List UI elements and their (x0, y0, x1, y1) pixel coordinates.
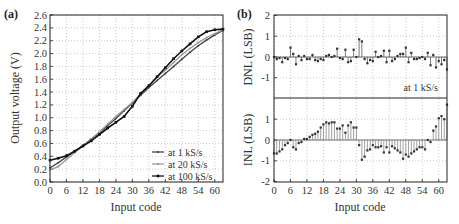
x-tick-label: 48 (401, 185, 412, 196)
x-tick-label: 60 (434, 185, 445, 196)
x-tick-label: 36 (144, 185, 155, 196)
y-tick-label: -1 (261, 155, 270, 166)
y-tick-label: 1.0 (34, 112, 47, 123)
x-tick-label: 0 (47, 185, 52, 196)
legend-item: at 1 kS/s (152, 147, 203, 158)
x-tick-label: 30 (127, 185, 138, 196)
x-tick-label: 12 (78, 185, 89, 196)
x-axis-title: Input code (111, 200, 162, 214)
figure: 0.00.20.40.60.81.01.21.41.61.82.02.22.42… (0, 0, 459, 224)
dnl-annotation: at 1 kS/s (404, 82, 439, 93)
x-tick-label: 30 (351, 185, 362, 196)
x-tick-label: 24 (335, 185, 346, 196)
panel-label-a: (a) (4, 7, 18, 21)
x-tick-label: 6 (64, 185, 69, 196)
y-tick-label: 0.4 (34, 151, 48, 162)
y-tick-label: 0.8 (34, 125, 47, 136)
y-tick-label: 0 (265, 135, 270, 146)
x-tick-label: 18 (94, 185, 105, 196)
y-tick-label: 1 (265, 114, 270, 125)
legend: at 1 kS/sat 20 kS/sat 100 kS/s (152, 147, 213, 182)
y-tick-label: 2.2 (34, 35, 47, 46)
legend-label: at 1 kS/s (168, 147, 203, 158)
x-tick-label: 54 (193, 185, 204, 196)
x-tick-label: 0 (271, 185, 276, 196)
y-tick-label: 0.0 (34, 177, 47, 188)
y-tick-label: 1.8 (34, 61, 47, 72)
dnl-stems (273, 38, 448, 70)
y-tick-label: -2 (261, 176, 270, 187)
series-at-100-ks-s (49, 28, 225, 162)
y-tick-label: 2 (265, 10, 270, 21)
y-tick-label: 1.6 (34, 74, 47, 85)
y-tick-label: 0.6 (34, 138, 47, 149)
legend-item: at 100 kS/s (152, 171, 213, 182)
stem-series (273, 38, 448, 161)
x-tick-labels: 06121824303642485460 (47, 185, 220, 196)
x-tick-label: 42 (384, 185, 395, 196)
inl-stems (273, 104, 448, 161)
x-tick-label: 60 (210, 185, 221, 196)
y-tick-label: 1.2 (34, 99, 47, 110)
y-tick-label: 2.4 (34, 22, 48, 33)
y-tick-label: 1 (265, 31, 270, 42)
panel-b-dnl-inl-chart: 210-110-1-2 06121824303642485460 (b) DNL… (237, 7, 448, 214)
legend-label: at 20 kS/s (168, 159, 208, 170)
y-tick-labels: 0.00.20.40.60.81.01.21.41.61.82.02.22.42… (34, 10, 48, 188)
y-tick-label: -1 (261, 72, 270, 83)
legend-label: at 100 kS/s (168, 171, 213, 182)
y-tick-label: 1.4 (34, 87, 48, 98)
x-tick-labels: 06121824303642485460 (271, 185, 444, 196)
inl-axis-title: INL (LSB) (241, 114, 255, 167)
x-tick-label: 36 (368, 185, 379, 196)
x-tick-label: 18 (318, 185, 329, 196)
y-tick-label: 2.0 (34, 48, 47, 59)
y-tick-label: 0 (265, 52, 270, 63)
x-tick-label: 24 (111, 185, 122, 196)
legend-item: at 20 kS/s (152, 159, 208, 170)
x-tick-label: 42 (160, 185, 171, 196)
y-tick-label: 0.2 (34, 164, 47, 175)
y-tick-labels: 210-110-1-2 (261, 10, 270, 187)
x-tick-label: 54 (417, 185, 428, 196)
panel-a-voltage-chart: 0.00.20.40.60.81.01.21.41.61.82.02.22.42… (4, 7, 224, 214)
x-tick-label: 48 (177, 185, 188, 196)
y-axis-title: Output voltage (V) (8, 52, 22, 143)
y-tick-label: 2.6 (34, 10, 47, 21)
panel-label-b: (b) (237, 7, 252, 21)
dnl-axis-title: DNL (LSB) (241, 28, 255, 85)
x-tick-label: 12 (302, 185, 313, 196)
x-axis-title: Input code (335, 200, 386, 214)
x-tick-label: 6 (288, 185, 293, 196)
